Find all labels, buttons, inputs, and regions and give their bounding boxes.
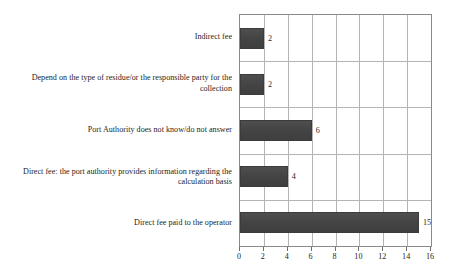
x-axis-tick-mark — [406, 247, 407, 251]
bar — [240, 212, 419, 233]
x-axis-tick-mark — [382, 247, 383, 251]
category-label: Port Authority does not know/do not answ… — [0, 107, 236, 154]
bars-layer: 2 2 6 4 15 — [240, 15, 431, 246]
bar-value-label: 15 — [423, 218, 431, 227]
category-label: Indirect fee — [0, 14, 236, 61]
category-label-text: Direct fee paid to the operator — [134, 218, 232, 229]
category-label-text: Indirect fee — [195, 32, 232, 43]
bar-value-label: 4 — [292, 172, 296, 181]
category-label: Depend on the type of residue/or the res… — [0, 61, 236, 108]
x-axis-tick-label: 0 — [237, 252, 241, 261]
x-axis-tick-mark — [335, 247, 336, 251]
category-label-text: Port Authority does not know/do not answ… — [88, 125, 232, 136]
bar — [240, 28, 264, 49]
x-axis-tick-mark — [358, 247, 359, 251]
x-axis-tick-label: 16 — [426, 252, 434, 261]
x-axis-tick-mark — [239, 247, 240, 251]
x-axis-tick-mark — [430, 247, 431, 251]
x-axis-tick-mark — [311, 247, 312, 251]
x-axis-tick-label: 2 — [261, 252, 265, 261]
bar-row: 6 — [240, 107, 431, 153]
plot-area: 2 2 6 4 15 — [239, 14, 432, 247]
category-label-column: Indirect fee Depend on the type of resid… — [0, 14, 236, 247]
x-axis-tick-mark — [287, 247, 288, 251]
x-axis: 0246810121416 — [239, 247, 432, 271]
bar-chart: Indirect fee Depend on the type of resid… — [0, 0, 454, 271]
x-axis-tick-label: 14 — [402, 252, 410, 261]
bar-value-label: 6 — [316, 126, 320, 135]
bar — [240, 120, 312, 141]
x-axis-tick-label: 10 — [354, 252, 362, 261]
bar-value-label: 2 — [268, 33, 272, 42]
category-label-text: Direct fee: the port authority provides … — [0, 167, 232, 188]
x-axis-tick-mark — [263, 247, 264, 251]
bar — [240, 166, 288, 187]
x-axis-tick-label: 4 — [285, 252, 289, 261]
bar-row: 2 — [240, 61, 431, 107]
x-axis-tick-label: 8 — [332, 252, 336, 261]
bar-row: 2 — [240, 15, 431, 61]
bar-row: 15 — [240, 200, 431, 246]
category-label: Direct fee: the port authority provides … — [0, 154, 236, 201]
category-label-text: Depend on the type of residue/or the res… — [0, 73, 232, 94]
x-axis-tick-label: 12 — [378, 252, 386, 261]
category-label: Direct fee paid to the operator — [0, 200, 236, 247]
bar-row: 4 — [240, 154, 431, 200]
x-axis-tick-label: 6 — [309, 252, 313, 261]
bar — [240, 74, 264, 95]
bar-value-label: 2 — [268, 79, 272, 88]
